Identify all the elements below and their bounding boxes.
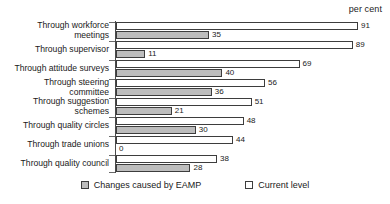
category-label: Through steering committee [0,78,109,97]
bar-value-label: 30 [196,126,208,134]
bar-changes-caused-by-eamp [116,88,212,96]
bar-current-level [116,136,233,144]
legend-item[interactable]: Current level [245,180,309,190]
category-label: Through quality circles [0,121,109,130]
legend-label: Current level [258,180,309,190]
category-label: Through supervisor [0,45,109,54]
chart-legend: Changes caused by EAMPCurrent level [0,180,390,190]
category-label: Through quality council [0,159,109,168]
axis-tick [109,172,115,173]
axis-tick [109,155,115,156]
bar-value-label: 35 [209,31,221,39]
plot-area: Through workforce meetingsThrough superv… [0,21,390,173]
axis-tick [109,136,115,137]
bar-changes-caused-by-eamp [116,107,172,115]
bar-value-label: 44 [233,136,245,144]
axis-tick [109,117,115,118]
bar-value-label: 69 [300,60,312,68]
bar-value-label: 89 [353,41,365,49]
bar-value-label: 0 [116,145,123,153]
bar-changes-caused-by-eamp [116,69,222,77]
bar-changes-caused-by-eamp [116,31,209,39]
bar-chart: per cent Through workforce meetingsThrou… [0,0,390,204]
bar-value-label: 48 [244,117,256,125]
bar-value-label: 40 [222,69,234,77]
bar-value-label: 11 [145,50,156,58]
legend-swatch-icon [81,181,89,189]
bar-current-level [116,79,265,87]
unit-caption: per cent [349,4,382,14]
bar-current-level [116,41,353,49]
axis-tick [109,79,115,80]
bar-current-level [116,117,244,125]
bar-value-label: 91 [358,22,370,30]
bar-current-level [116,60,300,68]
bar-current-level [116,98,252,106]
bar-value-label: 38 [217,155,229,163]
category-axis-labels: Through workforce meetingsThrough superv… [0,21,113,173]
legend-swatch-icon [245,181,253,189]
bar-changes-caused-by-eamp [116,50,145,58]
bar-value-label: 56 [265,79,277,87]
legend-label: Changes caused by EAMP [94,180,202,190]
category-label: Through suggestion schemes [0,97,109,116]
category-label: Through trade unions [0,140,109,149]
bar-value-label: 36 [212,88,224,96]
axis-tick [109,41,115,42]
category-label: Through attitude surveys [0,64,109,73]
axis-tick [109,60,115,61]
bar-value-label: 51 [252,98,264,106]
axis-tick [109,98,115,99]
axis-tick [109,22,115,23]
bar-current-level [116,155,217,163]
bar-changes-caused-by-eamp [116,126,196,134]
bar-changes-caused-by-eamp [116,164,190,172]
bar-value-label: 21 [172,107,184,115]
legend-item[interactable]: Changes caused by EAMP [81,180,202,190]
bar-current-level [116,22,358,30]
bar-value-label: 28 [190,164,202,172]
bars-container: 9135891169405636512148304403828 [116,21,390,173]
category-label: Through workforce meetings [0,21,109,40]
